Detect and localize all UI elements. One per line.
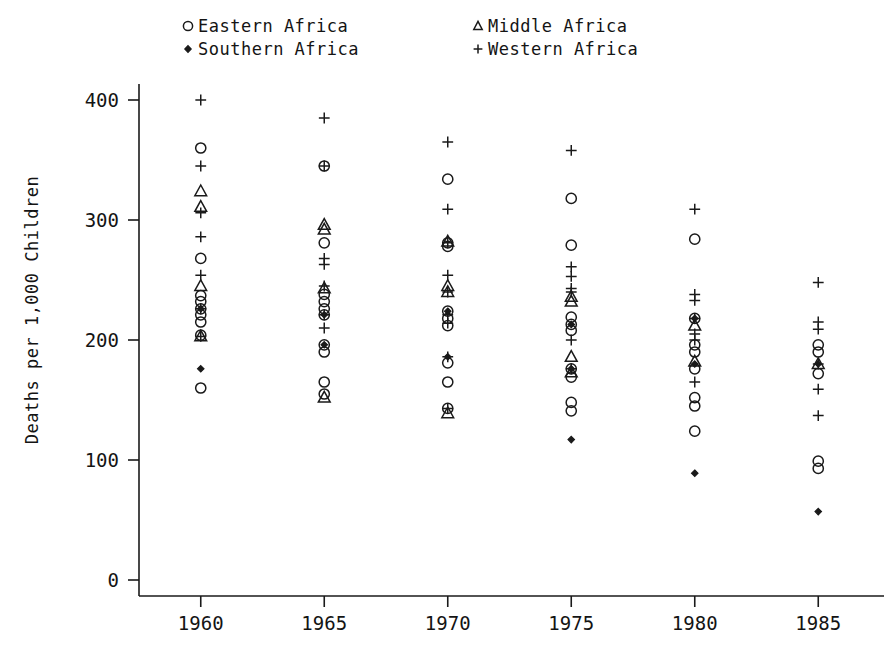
y-tick-label: 300 [85, 209, 119, 231]
point-marker-plus [319, 323, 330, 334]
point-marker-plus [195, 207, 206, 218]
point-marker-circle [813, 463, 823, 473]
point-marker-plus [442, 204, 453, 215]
series-eastern-africa [196, 143, 824, 474]
point-marker-circle [196, 383, 206, 393]
point-marker-circle [443, 174, 453, 184]
point-marker-circle [690, 234, 700, 244]
point-marker-plus [442, 270, 453, 281]
point-marker-plus [689, 377, 700, 388]
point-marker-triangle [195, 185, 207, 196]
point-marker-plus [195, 161, 206, 172]
point-marker-plus [689, 204, 700, 215]
point-marker-plus [813, 384, 824, 395]
point-marker-plus [566, 335, 577, 346]
y-axis-title: Deaths per 1,000 Children [22, 60, 42, 560]
series-middle-africa [195, 185, 824, 418]
point-marker-circle [319, 377, 329, 387]
x-tick-label: 1975 [548, 612, 594, 634]
point-marker-plus [195, 95, 206, 106]
chart-figure: 0100200300400196019651970197519801985 Ea… [0, 0, 886, 661]
x-tick-label: 1985 [795, 612, 841, 634]
point-marker-diamond [198, 366, 204, 372]
point-marker-circle [690, 426, 700, 436]
point-marker-diamond [815, 508, 821, 514]
point-marker-plus [566, 261, 577, 272]
point-marker-circle [196, 317, 206, 327]
axis-ticks [128, 100, 818, 607]
point-marker-circle [443, 377, 453, 387]
series-southern-africa [198, 306, 822, 515]
point-marker-triangle [565, 351, 577, 362]
point-marker-circle [196, 253, 206, 263]
point-marker-plus [195, 270, 206, 281]
point-marker-diamond [692, 470, 698, 476]
point-marker-plus [813, 324, 824, 335]
point-marker-circle [196, 291, 206, 301]
y-tick-label: 400 [85, 89, 119, 111]
point-marker-circle [566, 240, 576, 250]
x-tick-label: 1970 [425, 612, 471, 634]
point-marker-plus [195, 231, 206, 242]
point-marker-triangle [195, 280, 207, 291]
x-tick-label: 1980 [672, 612, 718, 634]
point-marker-plus [566, 145, 577, 156]
point-marker-plus [689, 335, 700, 346]
point-marker-circle [813, 369, 823, 379]
axis-tick-labels: 0100200300400196019651970197519801985 [85, 89, 841, 634]
point-marker-plus [689, 295, 700, 306]
point-marker-plus [813, 410, 824, 421]
point-marker-plus [813, 277, 824, 288]
y-tick-label: 0 [108, 569, 119, 591]
point-marker-circle [566, 193, 576, 203]
x-tick-label: 1960 [178, 612, 224, 634]
series-western-africa [195, 95, 823, 421]
point-marker-plus [442, 318, 453, 329]
data-points [195, 95, 824, 515]
point-marker-circle [319, 238, 329, 248]
y-tick-label: 200 [85, 329, 119, 351]
point-marker-plus [319, 259, 330, 270]
point-marker-circle [196, 143, 206, 153]
y-tick-label: 100 [85, 449, 119, 471]
x-tick-label: 1965 [301, 612, 347, 634]
point-marker-plus [566, 271, 577, 282]
point-marker-plus [442, 137, 453, 148]
point-marker-diamond [568, 436, 574, 442]
point-marker-plus [319, 113, 330, 124]
axes [139, 84, 884, 596]
scatter-plot-canvas: 0100200300400196019651970197519801985 [0, 0, 886, 661]
point-marker-circle [813, 347, 823, 357]
